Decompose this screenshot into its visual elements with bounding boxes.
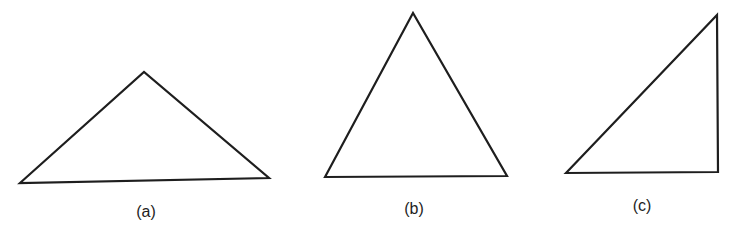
triangle-figure: (a) (b) (c) <box>0 0 739 236</box>
panel-b: (b) <box>325 13 507 217</box>
panel-label-b: (b) <box>404 200 424 217</box>
obtuse-triangle <box>20 72 269 183</box>
right-triangle <box>566 15 718 173</box>
panel-label-c: (c) <box>633 197 652 214</box>
panel-label-a: (a) <box>136 203 156 220</box>
acute-triangle <box>325 13 507 177</box>
panel-a: (a) <box>20 72 269 220</box>
panel-c: (c) <box>566 15 718 214</box>
